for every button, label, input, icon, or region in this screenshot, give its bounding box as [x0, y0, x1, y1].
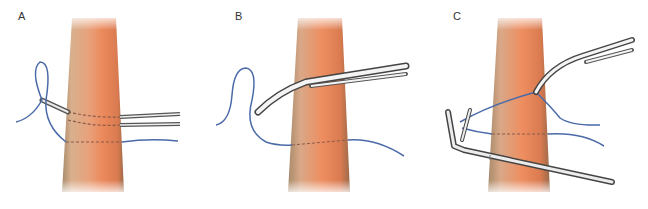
panel-b: B: [216, 0, 432, 209]
panel-b-illustration: [216, 0, 432, 209]
suture: [16, 62, 66, 142]
panel-a: A: [0, 0, 216, 209]
curved-forceps: [536, 40, 632, 92]
panel-c: C: [432, 0, 648, 209]
vessel: [62, 18, 124, 192]
vessel: [288, 18, 350, 192]
suture: [216, 68, 292, 145]
panel-c-illustration: [432, 0, 648, 209]
suture-technique-figure: A: [0, 0, 648, 209]
panel-a-illustration: [0, 0, 216, 209]
